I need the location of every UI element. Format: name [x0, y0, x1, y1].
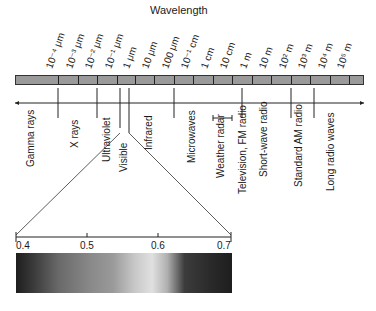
visible-spectrum-strip: [16, 253, 232, 293]
band-label: Long radio waves: [326, 113, 336, 191]
band-label: Microwaves: [187, 110, 197, 163]
band-label: Weather radar: [216, 114, 226, 178]
axis-tick-label: 0.7: [217, 240, 231, 251]
axis-tick-label: 0.5: [80, 240, 94, 251]
band-label: Short-wave radio: [259, 101, 269, 177]
band-label: Infrared: [144, 116, 154, 150]
band-label: Visible: [119, 143, 129, 172]
axis-tick-label: 0.4: [16, 240, 30, 251]
band-label: Television, FM radio: [238, 105, 248, 194]
band-label: Standard AM radio: [294, 104, 304, 187]
band-label: Ultraviolet: [102, 118, 112, 162]
band-label: Gamma rays: [26, 110, 36, 167]
band-label: X rays: [70, 120, 80, 148]
axis-tick-label: 0.6: [151, 240, 165, 251]
